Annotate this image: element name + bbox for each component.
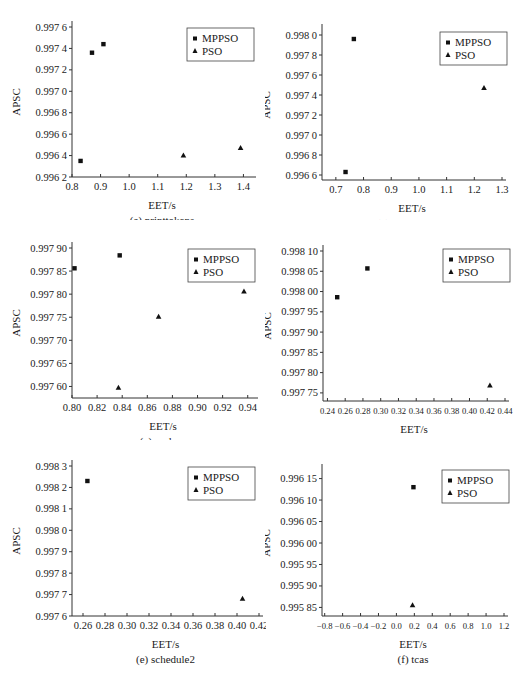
x-tick-label: 0.38	[444, 406, 459, 416]
y-tick-label: 0.997 95	[281, 306, 318, 317]
legend-square-icon	[446, 41, 450, 45]
chart-caption: (e) schedule2	[136, 653, 195, 666]
x-tick-label: 1.2	[499, 621, 510, 631]
y-tick-label: 0.996 6	[36, 129, 68, 140]
y-axis-label: APSC	[265, 91, 272, 119]
legend-label-mppso: MPPSO	[457, 474, 493, 486]
chart-panel-c: 0.997 600.997 650.997 700.997 750.997 80…	[0, 220, 266, 444]
x-tick-label: 0.38	[206, 620, 224, 631]
y-tick-label: 0.997 6	[286, 70, 318, 81]
data-point-square	[411, 485, 415, 489]
legend-label-pso: PSO	[202, 45, 222, 57]
x-tick-label: 0.80	[63, 402, 81, 413]
x-tick-label: 0.24	[320, 406, 336, 416]
y-axis-label: APSC	[10, 88, 22, 116]
data-point-triangle	[410, 602, 416, 607]
x-tick-label: 0.8	[463, 621, 474, 631]
x-tick-label: 0.36	[426, 406, 442, 416]
data-point-square	[72, 266, 76, 270]
y-tick-label: 0.997 0	[36, 86, 68, 97]
x-axis-label: EET/s	[398, 202, 426, 214]
y-tick-label: 0.995 95	[280, 559, 317, 570]
x-axis-label: EET/s	[148, 199, 176, 211]
legend: MPPSOPSO	[187, 28, 254, 61]
y-axis-ticks: 0.996 60.996 80.997 00.997 20.997 40.997…	[286, 30, 323, 181]
legend-label-mppso: MPPSO	[455, 36, 491, 48]
y-tick-label: 0.996 8	[286, 150, 318, 161]
y-tick-label: 0.998 10	[281, 246, 318, 257]
y-tick-label: 0.996 00	[280, 538, 317, 549]
y-tick-label: 0.997 4	[36, 43, 68, 54]
x-tick-label: 0.40	[228, 620, 246, 631]
x-tick-label: 1.2	[180, 181, 193, 192]
x-tick-label: −0.6	[335, 621, 351, 631]
x-tick-label: 0.28	[96, 620, 114, 631]
x-axis-label: EET/s	[400, 423, 428, 435]
x-tick-label: 0.34	[162, 620, 181, 631]
x-tick-label: 1.1	[440, 184, 453, 195]
chart-panel-a: 0.996 20.996 40.996 60.996 80.997 00.997…	[0, 0, 266, 224]
x-tick-label: 0.8	[65, 181, 78, 192]
y-tick-label: 0.997 85	[30, 266, 67, 277]
y-tick-label: 0.997 65	[30, 358, 67, 369]
data-point-triangle	[116, 385, 122, 390]
y-tick-label: 0.997 6	[36, 22, 68, 33]
y-axis-ticks: 0.996 20.996 40.996 60.996 80.997 00.997…	[36, 22, 73, 183]
y-axis-label: APSC	[10, 527, 22, 555]
x-tick-label: −0.4	[353, 621, 369, 631]
legend-label-mppso: MPPSO	[202, 32, 238, 44]
y-tick-label: 0.998 3	[36, 461, 68, 472]
legend-label-mppso: MPPSO	[203, 471, 239, 483]
x-tick-label: 0.6	[445, 621, 456, 631]
legend-label-pso: PSO	[455, 49, 475, 61]
data-point-triangle	[181, 153, 187, 158]
x-axis-label: EET/s	[152, 638, 180, 650]
y-tick-label: 0.997 90	[281, 327, 318, 338]
y-tick-label: 0.995 90	[280, 580, 317, 591]
y-axis-ticks: 0.997 750.997 800.997 850.997 900.997 95…	[281, 246, 323, 399]
y-tick-label: 0.996 6	[286, 170, 318, 181]
legend-label-pso: PSO	[203, 484, 223, 496]
x-tick-label: 0.40	[462, 406, 477, 416]
y-tick-label: 0.998 2	[36, 482, 68, 493]
y-tick-label: 0.996 2	[36, 172, 68, 183]
x-tick-label: 0.9	[385, 184, 398, 195]
x-tick-label: 0.86	[138, 402, 156, 413]
legend-label-pso: PSO	[457, 487, 477, 499]
data-point-square	[365, 266, 369, 270]
y-tick-label: 0.997 90	[30, 243, 67, 254]
y-tick-label: 0.998 0	[36, 525, 68, 536]
y-axis-ticks: 0.997 600.997 650.997 700.997 750.997 80…	[30, 243, 72, 392]
y-tick-label: 0.997 2	[36, 64, 68, 75]
chart-caption: (f) tcas	[398, 653, 429, 666]
legend-square-icon	[193, 37, 197, 41]
y-tick-label: 0.997 75	[30, 312, 67, 323]
chart-panel-e: 0.997 60.997 70.997 80.997 90.998 00.998…	[0, 440, 266, 678]
y-tick-label: 0.996 05	[280, 516, 317, 527]
x-tick-label: 1.3	[208, 181, 221, 192]
x-axis-label: EET/s	[399, 638, 427, 650]
y-tick-label: 0.995 85	[280, 602, 317, 613]
data-point-triangle	[240, 596, 246, 601]
series-pso	[240, 596, 246, 601]
series-mppso	[72, 253, 122, 270]
data-point-square	[343, 170, 347, 174]
series-pso	[181, 145, 244, 158]
data-point-triangle	[238, 145, 244, 150]
legend-label-pso: PSO	[458, 266, 478, 278]
data-point-square	[90, 51, 94, 55]
y-tick-label: 0.997 9	[36, 546, 68, 557]
legend-square-icon	[449, 258, 453, 262]
data-point-triangle	[481, 85, 487, 90]
data-point-triangle	[241, 288, 247, 293]
y-axis-label: APSC	[265, 529, 272, 557]
x-tick-label: −0.8	[317, 621, 333, 631]
x-tick-label: 1.4	[237, 181, 251, 192]
x-tick-label: 0.28	[355, 406, 370, 416]
series-pso	[481, 85, 487, 90]
y-tick-label: 0.996 4	[36, 150, 68, 161]
x-tick-label: 0.26	[338, 406, 354, 416]
y-tick-label: 0.997 7	[36, 589, 68, 600]
x-tick-label: 1.2	[468, 184, 481, 195]
series-pso	[487, 383, 493, 388]
